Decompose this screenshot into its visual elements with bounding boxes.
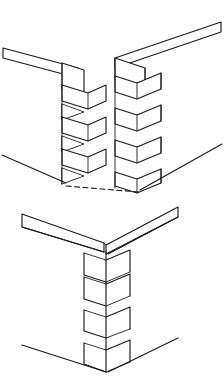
assembled-right-finger-4	[106, 340, 130, 362]
assembled-ground-guide-left	[22, 345, 106, 372]
assembled-right-finger-bottom-2	[106, 296, 130, 306]
assembled-right-finger-bottom-1	[106, 272, 130, 282]
right-board-finger-3	[115, 137, 161, 163]
right-board-finger-2	[115, 105, 161, 131]
joint-drawing-canvas: Corner box joint (finger joint) — explod…	[0, 0, 224, 386]
assembled-left-finger-top-3	[84, 310, 106, 317]
exploded-right-board	[115, 22, 221, 193]
left-board-finger-3	[62, 149, 106, 173]
assembled-right-front-top-edge	[108, 217, 178, 254]
assembled-right-finger-3	[106, 307, 130, 329]
joint-illustration: Corner box joint (finger joint) — explod…	[0, 0, 224, 386]
assembled-view	[22, 207, 178, 372]
assembled-right-top-face	[106, 207, 178, 254]
right-board-finger-4	[115, 169, 161, 193]
assembled-right-finger-bottom-3	[106, 329, 130, 338]
exploded-view	[2, 22, 222, 193]
assembled-right-fingers	[106, 250, 130, 372]
assembled-ground-guide-right	[108, 338, 178, 372]
assembled-left-finger-top-4	[84, 343, 106, 350]
assembled-left-top-face	[22, 214, 104, 252]
assembled-left-finger-top-1	[84, 253, 106, 260]
assembled-left-finger-3	[84, 310, 106, 338]
exploded-ground-guide-left	[2, 155, 66, 183]
assembled-left-fingers	[84, 253, 106, 372]
assembled-left-finger-4	[84, 343, 106, 372]
left-board-finger-2	[62, 117, 106, 141]
exploded-left-board	[3, 48, 106, 184]
right-board-top-face	[115, 22, 221, 68]
